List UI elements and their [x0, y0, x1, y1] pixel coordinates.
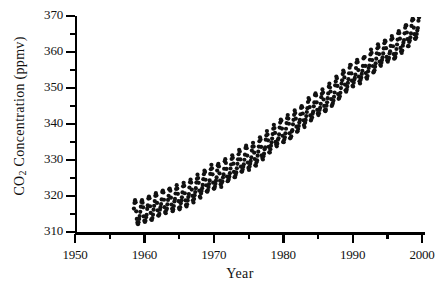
data-point [191, 200, 195, 204]
data-point [252, 151, 256, 155]
data-point [270, 137, 274, 141]
data-point [175, 186, 179, 190]
x-tick-label: 1960 [132, 247, 157, 263]
data-point [395, 42, 399, 46]
data-point [308, 105, 312, 109]
data-point [265, 132, 269, 136]
data-point [208, 178, 212, 182]
data-point [349, 71, 353, 75]
data-point [209, 163, 213, 167]
data-point [247, 168, 251, 172]
x-tick-mark [213, 234, 215, 243]
data-point [141, 205, 145, 209]
data-point [272, 126, 276, 130]
x-tick-mark [317, 234, 319, 239]
data-point [273, 131, 277, 135]
data-point [409, 31, 413, 35]
data-point [269, 140, 273, 144]
x-tick-mark [74, 234, 76, 243]
data-point [154, 193, 158, 197]
data-point [224, 161, 228, 165]
data-point [162, 198, 166, 202]
y-tick-mark [70, 105, 75, 107]
data-point [190, 187, 194, 191]
data-point [301, 111, 305, 115]
data-point [345, 85, 349, 89]
data-point [220, 179, 224, 183]
data-point [287, 122, 291, 126]
data-point [258, 137, 262, 141]
data-point [331, 98, 335, 102]
data-point [314, 93, 318, 97]
data-point [328, 89, 332, 93]
data-point [305, 110, 309, 114]
data-point [286, 116, 290, 120]
data-point [416, 26, 420, 30]
data-point [349, 63, 353, 67]
data-point [182, 184, 186, 188]
y-tick-mark [66, 231, 75, 233]
data-point [165, 206, 169, 210]
data-point [176, 192, 180, 196]
data-point [310, 115, 314, 119]
data-point [351, 84, 355, 88]
data-point [203, 170, 207, 174]
data-point [327, 82, 331, 86]
data-point [398, 37, 402, 41]
data-point [311, 110, 315, 114]
y-tick-mark [66, 51, 75, 53]
data-point [353, 72, 357, 76]
data-point [391, 44, 395, 48]
data-point [293, 111, 297, 115]
data-point [151, 208, 155, 212]
data-point [193, 190, 197, 194]
data-point [346, 81, 350, 85]
data-point [363, 55, 367, 59]
data-point [304, 118, 308, 122]
data-point [134, 200, 138, 204]
data-point [242, 162, 246, 166]
y-axis-title-prefix: CO [12, 176, 27, 196]
data-point [185, 202, 189, 206]
data-point [196, 176, 200, 180]
data-point [228, 166, 232, 170]
x-tick-label: 1970 [201, 247, 226, 263]
data-point [405, 30, 409, 34]
data-point [338, 91, 342, 95]
data-point [356, 60, 360, 64]
data-point [172, 204, 176, 208]
data-point [259, 145, 263, 149]
data-point [219, 185, 223, 189]
data-point [404, 23, 408, 27]
data-point [217, 164, 221, 168]
data-point [377, 52, 381, 56]
data-point [178, 205, 182, 209]
y-tick-label: 330 [44, 151, 63, 167]
x-axis-spine [75, 232, 425, 235]
data-point [289, 134, 293, 138]
y-tick-mark [70, 33, 75, 35]
x-tick-mark [143, 234, 145, 243]
data-point [143, 219, 147, 223]
data-point [223, 157, 227, 161]
data-point [140, 201, 144, 205]
data-point [192, 197, 196, 201]
y-tick-mark [66, 15, 75, 17]
data-point [283, 131, 287, 135]
data-point [268, 147, 272, 151]
y-tick-mark [66, 123, 75, 125]
data-point [324, 108, 328, 112]
y-axis-title: CO2 Concentration (ppmv) [12, 1, 28, 231]
data-point [390, 36, 394, 40]
data-point [300, 105, 304, 109]
data-point [383, 39, 387, 43]
data-point [339, 86, 343, 90]
data-point [394, 47, 398, 51]
data-point [374, 61, 378, 65]
data-point [370, 58, 374, 62]
data-point [332, 95, 336, 99]
data-point [210, 166, 214, 170]
x-tick-mark [386, 234, 388, 239]
data-point [242, 158, 246, 162]
data-point [291, 122, 295, 126]
